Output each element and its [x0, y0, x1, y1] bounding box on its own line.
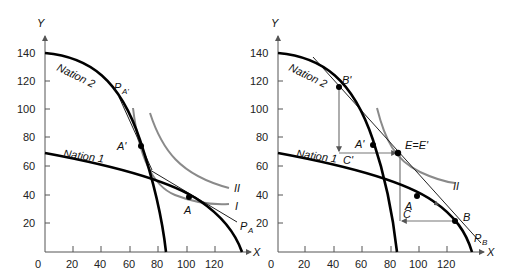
y-tick-40: 40 — [256, 189, 268, 201]
svg-text:P: P — [240, 220, 248, 232]
label-p-a-prime: P A' — [114, 81, 129, 96]
y-tick-20: 20 — [23, 217, 35, 229]
label-nation-2: Nation 2 — [55, 61, 97, 90]
point-a-prime — [370, 142, 376, 148]
svg-text:A: A — [247, 226, 253, 235]
x-tick-120: 120 — [437, 258, 455, 270]
ppf-nation-1 — [45, 153, 242, 252]
y-tick-80: 80 — [256, 131, 268, 143]
point-a-prime — [138, 143, 144, 149]
label-point-b-prime: B' — [342, 74, 352, 86]
label-indiff-II: II — [234, 182, 240, 194]
x-tick-20: 20 — [66, 258, 78, 270]
y-tick-40: 40 — [23, 189, 35, 201]
label-point-a: A — [183, 204, 191, 216]
y-tick-20: 20 — [256, 217, 268, 229]
y-tick-60: 60 — [256, 160, 268, 172]
x-ticks: 20 40 60 80 100 120 — [66, 246, 223, 270]
x-tick-120: 120 — [205, 258, 223, 270]
svg-text:B: B — [482, 238, 488, 247]
x-tick-80: 80 — [151, 258, 163, 270]
label-p-b: P B — [474, 232, 488, 247]
label-indiff-II: II — [453, 180, 459, 192]
x-axis-label: X — [486, 246, 495, 258]
point-e — [395, 150, 401, 156]
origin-label: 0 — [35, 258, 41, 270]
x-tick-80: 80 — [384, 258, 396, 270]
origin-label: 0 — [268, 258, 274, 270]
label-point-c-prime: C' — [343, 154, 354, 166]
x-tick-60: 60 — [123, 258, 135, 270]
x-tick-100: 100 — [177, 258, 195, 270]
y-tick-80: 80 — [23, 131, 35, 143]
x-tick-40: 40 — [327, 258, 339, 270]
svg-text:P: P — [114, 81, 122, 93]
y-axis-label: Y — [37, 17, 45, 29]
x-axis-label: X — [252, 246, 261, 258]
y-tick-140: 140 — [250, 47, 268, 59]
left-panel: Y X 0 20 40 60 80 100 120 140 20 — [17, 17, 261, 270]
label-point-a-prime: A' — [354, 138, 365, 150]
ppf-nation-1 — [278, 153, 472, 252]
label-point-a-prime: A' — [116, 140, 127, 152]
x-tick-60: 60 — [355, 258, 367, 270]
label-point-b: B — [463, 211, 470, 223]
y-tick-120: 120 — [250, 75, 268, 87]
x-ticks: 20 40 60 80 100 120 — [298, 246, 455, 270]
svg-text:A': A' — [121, 87, 129, 96]
y-axis-label: Y — [271, 17, 279, 29]
right-panel: Y X 0 20 40 60 80 100 120 140 20 — [250, 17, 495, 270]
svg-text:P: P — [474, 232, 482, 244]
point-a — [186, 194, 192, 200]
label-p-a: P A — [240, 220, 253, 235]
x-tick-40: 40 — [94, 258, 106, 270]
y-tick-120: 120 — [17, 75, 35, 87]
point-a — [414, 193, 420, 199]
trade-diagram: Y X 0 20 40 60 80 100 120 140 20 — [0, 0, 517, 279]
point-b — [452, 218, 458, 224]
label-point-e: E=E' — [405, 139, 429, 151]
label-point-c: C — [403, 208, 411, 220]
y-tick-140: 140 — [17, 47, 35, 59]
label-indiff-I: I — [235, 200, 238, 212]
y-tick-100: 100 — [250, 103, 268, 115]
x-tick-20: 20 — [298, 258, 310, 270]
y-tick-60: 60 — [23, 160, 35, 172]
x-tick-100: 100 — [409, 258, 427, 270]
y-tick-100: 100 — [17, 103, 35, 115]
